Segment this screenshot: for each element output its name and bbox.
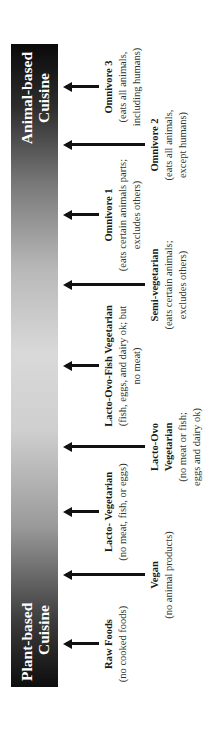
arrow-omnivore-1 xyxy=(66,213,99,216)
diet-label-omnivore-2: Omnivore 2 (eats all animals, except hum… xyxy=(148,80,190,210)
arrow-semi-vegetarian xyxy=(66,283,145,286)
diet-desc-line2: excludes others) xyxy=(130,150,144,280)
diet-label-vegan: Vegan (no animal products) xyxy=(148,510,176,640)
arrow-lacto-ovo-fish-vegetarian xyxy=(66,364,99,367)
diet-name: Lacto-Ovo-Fish Vegetarian xyxy=(102,301,116,431)
arrow-lacto-ovo-vegetarian xyxy=(66,445,145,448)
plant-based-label-line1: Plant-based xyxy=(18,603,35,681)
animal-based-label-line1: Animal-based xyxy=(18,52,35,144)
diet-desc: (eats all animals, xyxy=(162,80,176,210)
diet-name: Vegan xyxy=(148,510,162,640)
animal-based-label: Animal-based Cuisine xyxy=(11,52,58,144)
diet-label-lacto-ovo-vegetarian: Lacto-Ovo Vegetarian (no meat or fish; e… xyxy=(148,382,204,512)
diet-label-raw-foods: Raw Foods (no cooked foods) xyxy=(102,579,130,709)
diet-desc: (fish, eggs, and dairy ok; but xyxy=(116,301,130,431)
diet-label-lacto-vegetarian: Lacto- Vegetarian (no meat, fish, or egg… xyxy=(102,447,130,577)
diet-name: Lacto- Vegetarian xyxy=(102,447,116,577)
arrow-lacto-vegetarian xyxy=(66,510,99,513)
diet-name: Raw Foods xyxy=(102,579,116,709)
arrow-omnivore-3 xyxy=(66,85,99,88)
diet-desc-line2: including humans) xyxy=(130,22,144,152)
diet-desc: (no meat, fish, or eggs) xyxy=(116,447,130,577)
diet-name: Semi-vegetarian xyxy=(148,220,162,350)
plant-based-label-line2: Cuisine xyxy=(35,603,52,681)
diet-label-semi-vegetarian: Semi-vegetarian (eats certain animals; e… xyxy=(148,220,190,350)
diet-label-omnivore-1: Omnivore 1 (eats certain animals parts; … xyxy=(102,150,144,280)
diet-desc: (no meat or fish; xyxy=(176,382,190,512)
diet-name: Omnivore 2 xyxy=(148,80,162,210)
diet-name: Omnivore 1 xyxy=(102,150,116,280)
diet-desc-line2: eggs and dairy ok) xyxy=(190,382,204,512)
cuisine-spectrum-bar: Plant-based Cuisine Animal-based Cuisine xyxy=(11,44,58,687)
diet-spectrum-diagram: Plant-based Cuisine Animal-based Cuisine… xyxy=(0,0,211,734)
diet-label-lacto-ovo-fish-vegetarian: Lacto-Ovo-Fish Vegetarian (fish, eggs, a… xyxy=(102,301,144,431)
diet-desc: (no cooked foods) xyxy=(116,579,130,709)
diet-name-line2: Vegetarian xyxy=(162,382,176,512)
diet-label-omnivore-3: Omnivore 3 (eats all animals, including … xyxy=(102,22,144,152)
diet-desc: (eats all animals, xyxy=(116,22,130,152)
diet-desc-line2: excludes others) xyxy=(176,220,190,350)
diet-name: Lacto-Ovo xyxy=(148,382,162,512)
animal-based-label-line2: Cuisine xyxy=(35,73,52,123)
diet-desc: (no animal products) xyxy=(162,510,176,640)
plant-based-label: Plant-based Cuisine xyxy=(11,603,58,681)
diet-name: Omnivore 3 xyxy=(102,22,116,152)
diet-desc: (eats certain animals parts; xyxy=(116,150,130,280)
diet-desc-line2: except humans) xyxy=(176,80,190,210)
arrow-raw-foods xyxy=(66,642,99,645)
diet-desc-line2: no meat) xyxy=(130,301,144,431)
diet-desc: (eats certain animals; xyxy=(162,220,176,350)
